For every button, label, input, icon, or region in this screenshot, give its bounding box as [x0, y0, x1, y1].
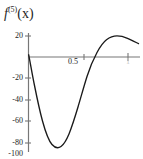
curve-path — [29, 36, 139, 148]
y-tick-label-neg80: -80 — [0, 139, 23, 147]
x-tick-label-1: 1 — [126, 58, 130, 66]
y-tick-label-neg40: -40 — [0, 96, 23, 104]
figure-container: f(5)(x) 20 -20 -40 -60 -80 -100 0.5 1 — [0, 0, 143, 159]
y-tick-label-neg60: -60 — [0, 117, 23, 125]
y-tick-label-neg100: -100 — [0, 150, 23, 158]
y-tick-label-20: 20 — [2, 32, 23, 40]
y-tick-label-neg20: -20 — [0, 74, 23, 82]
x-tick-label-0-5: 0.5 — [68, 58, 78, 66]
